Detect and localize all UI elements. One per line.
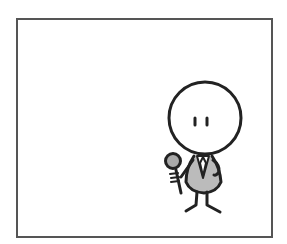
head	[169, 82, 241, 154]
reporter-figure	[0, 0, 287, 244]
microphone-icon	[166, 154, 182, 194]
leg-right	[207, 192, 220, 212]
leg-left	[186, 192, 197, 211]
